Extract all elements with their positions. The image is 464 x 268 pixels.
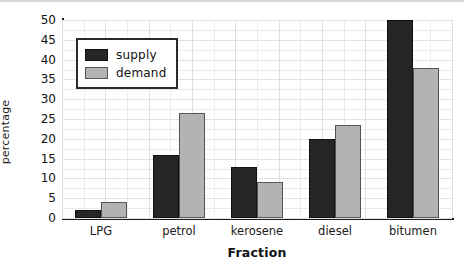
y-axis-tick: 20	[2, 133, 56, 145]
bar-demand-bitumen	[413, 68, 439, 218]
bar-supply-petrol	[153, 155, 179, 218]
y-axis-tick: 25	[2, 113, 56, 125]
x-axis-tick-bitumen: bitumen	[389, 224, 437, 238]
legend-item-demand: demand	[85, 64, 166, 81]
y-axis-tick: 30	[2, 93, 56, 105]
bar-demand-kerosene	[257, 182, 283, 218]
x-axis-tick-diesel: diesel	[318, 224, 352, 238]
y-axis-tick: 10	[2, 172, 56, 184]
bar-group	[387, 20, 439, 218]
x-axis-tick-LPG: LPG	[90, 224, 112, 238]
y-axis-tick: 35	[2, 73, 56, 85]
bar-group	[231, 20, 283, 218]
bar-supply-kerosene	[231, 167, 257, 218]
x-axis-line	[62, 218, 454, 220]
bar-supply-diesel	[309, 139, 335, 218]
gridline-vertical	[452, 20, 453, 218]
y-axis-tick: 50	[2, 14, 56, 26]
bar-demand-LPG	[101, 202, 127, 218]
bar-supply-bitumen	[387, 20, 413, 218]
y-axis-tick: 0	[2, 212, 56, 224]
chart-figure: percentage 50454035302520151050 LPGpetro…	[0, 0, 464, 268]
y-axis-tick: 45	[2, 34, 56, 46]
bar-demand-diesel	[335, 125, 361, 218]
x-axis-title: Fraction	[62, 245, 452, 260]
y-axis-tick: 40	[2, 54, 56, 66]
y-axis-tick: 5	[2, 192, 56, 204]
legend-swatch-supply	[85, 49, 108, 61]
legend-item-supply: supply	[85, 46, 166, 63]
legend-swatch-demand	[85, 67, 108, 79]
bar-group	[309, 20, 361, 218]
bar-demand-petrol	[179, 113, 205, 218]
y-axis-tick-labels: 50454035302520151050	[0, 2, 56, 242]
bar-supply-LPG	[75, 210, 101, 218]
legend-label: demand	[116, 66, 166, 80]
chart-legend: supplydemand	[76, 38, 178, 89]
x-axis-tick-petrol: petrol	[162, 224, 196, 238]
y-axis-tick: 15	[2, 153, 56, 165]
legend-label: supply	[116, 48, 157, 62]
x-axis-tick-kerosene: kerosene	[231, 224, 283, 238]
